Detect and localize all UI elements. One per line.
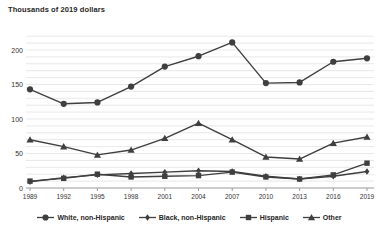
svg-text:1995: 1995 (90, 193, 105, 200)
svg-text:150: 150 (11, 81, 23, 88)
square-marker-icon (240, 213, 257, 222)
svg-text:1998: 1998 (124, 193, 139, 200)
svg-text:2016: 2016 (326, 193, 341, 200)
svg-text:1992: 1992 (56, 193, 71, 200)
legend-label: Hispanic (260, 214, 289, 221)
svg-text:200: 200 (11, 47, 23, 54)
svg-text:2010: 2010 (259, 193, 274, 200)
triangle-marker-icon (303, 213, 320, 222)
legend-item-white-non-hispanic: White, non-Hispanic (37, 213, 124, 222)
svg-text:2001: 2001 (158, 193, 173, 200)
legend: White, non-Hispanic Black, non-Hispanic … (0, 210, 379, 224)
svg-text:50: 50 (15, 150, 23, 157)
svg-text:1989: 1989 (23, 193, 38, 200)
legend-label: White, non-Hispanic (57, 214, 124, 221)
svg-text:100: 100 (11, 116, 23, 123)
svg-text:2019: 2019 (360, 193, 375, 200)
svg-text:2007: 2007 (225, 193, 240, 200)
diamond-marker-icon (139, 213, 156, 222)
legend-label: Other (323, 214, 342, 221)
svg-text:0: 0 (19, 185, 23, 192)
wealth-by-race-line-chart: Thousands of 2019 dollars 05010015020019… (0, 0, 379, 233)
legend-item-hispanic: Hispanic (240, 213, 289, 222)
svg-text:2013: 2013 (292, 193, 307, 200)
legend-item-black-non-hispanic: Black, non-Hispanic (139, 213, 226, 222)
svg-text:2004: 2004 (191, 193, 206, 200)
legend-item-other: Other (303, 213, 342, 222)
legend-label: Black, non-Hispanic (159, 214, 226, 221)
plot-area: 0501001502001989199219951998200120042007… (0, 0, 379, 233)
circle-marker-icon (37, 213, 54, 222)
